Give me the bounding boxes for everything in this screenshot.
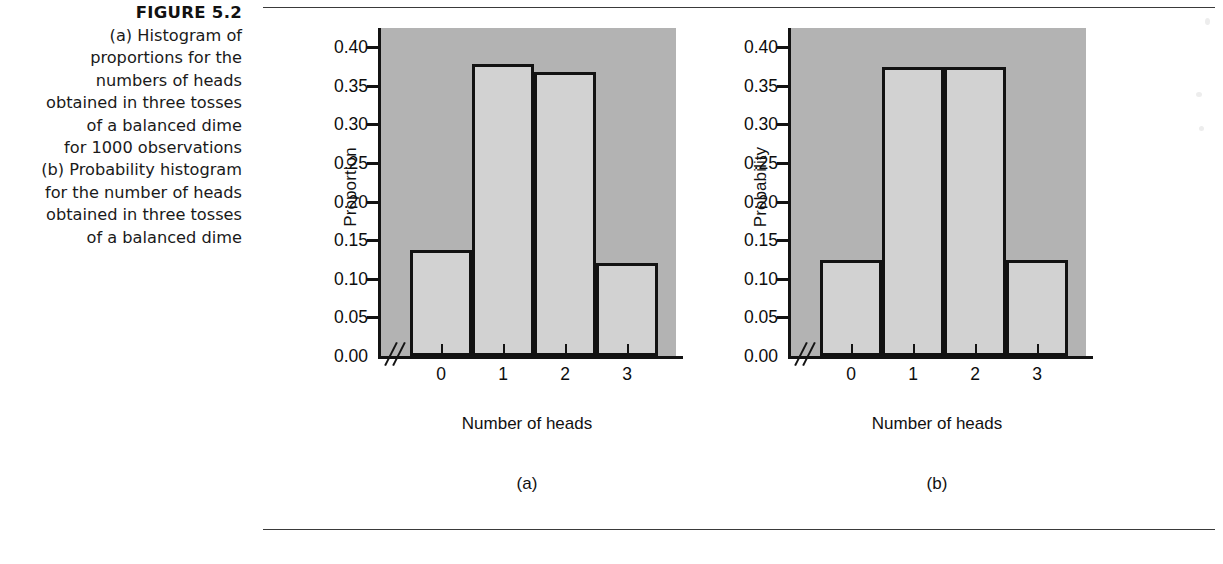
y-axis-tick <box>777 85 789 88</box>
plot-inner <box>378 28 676 356</box>
x-tick-label-group: 0123 <box>378 364 683 388</box>
x-axis-tick <box>441 344 443 357</box>
histogram-bar <box>596 263 658 356</box>
plot-area <box>378 28 676 356</box>
y-tick-label: 0.10 <box>716 270 778 288</box>
panel-label-a: (a) <box>378 474 676 494</box>
y-axis-tick <box>777 46 789 49</box>
y-axis-tick <box>367 123 379 126</box>
x-axis-spine <box>788 356 1093 359</box>
y-tick-label: 0.35 <box>306 77 368 95</box>
figure-bottom-rule <box>263 529 1215 530</box>
x-tick-label: 2 <box>960 364 990 385</box>
y-axis-tick <box>367 201 379 204</box>
histogram-bar <box>882 67 944 356</box>
chart-panel-b: Probability 0.000.050.100.150.200.250.30… <box>700 22 1130 512</box>
x-axis-tick <box>565 344 567 357</box>
caption-line: for 1000 observations <box>0 137 242 159</box>
histogram-bar <box>472 64 534 356</box>
y-tick-label: 0.05 <box>716 308 778 326</box>
y-axis-tick <box>367 162 379 165</box>
y-axis-tick <box>777 123 789 126</box>
caption-line: of a balanced dime <box>0 115 242 137</box>
y-tick-label-group: 0.000.050.100.150.200.250.300.350.40 <box>306 22 368 362</box>
y-tick-label: 0.30 <box>716 115 778 133</box>
caption-line: for the number of heads <box>0 182 242 204</box>
x-tick-label: 3 <box>612 364 642 385</box>
y-axis-spine <box>378 28 381 356</box>
y-axis-tick <box>367 316 379 319</box>
histogram-bar <box>410 250 472 356</box>
y-axis-tick <box>777 278 789 281</box>
y-tick-label: 0.35 <box>716 77 778 95</box>
x-tick-label: 2 <box>550 364 580 385</box>
plot-inner <box>788 28 1086 356</box>
x-tick-label-group: 0123 <box>788 364 1093 388</box>
x-axis-tick <box>913 344 915 357</box>
x-axis-title: Number of heads <box>788 414 1086 434</box>
y-tick-label: 0.30 <box>306 115 368 133</box>
caption-line: of a balanced dime <box>0 227 242 249</box>
caption-line: (a) Histogram of <box>0 25 242 47</box>
y-tick-label: 0.15 <box>716 231 778 249</box>
y-tick-label: 0.05 <box>306 308 368 326</box>
figure-number: FIGURE 5.2 <box>0 0 252 24</box>
y-tick-label: 0.40 <box>306 38 368 56</box>
x-tick-label: 0 <box>426 364 456 385</box>
plot-area <box>788 28 1086 356</box>
y-tick-label: 0.10 <box>306 270 368 288</box>
y-tick-label: 0.00 <box>716 347 778 365</box>
figure-top-rule <box>263 7 1215 8</box>
histogram-bar <box>820 260 882 356</box>
y-axis-spine <box>788 28 791 356</box>
y-axis-tick <box>777 239 789 242</box>
caption-line: (b) Probability histogram <box>0 159 242 181</box>
paper-speck <box>1199 126 1204 131</box>
caption-line: obtained in three tosses <box>0 204 242 226</box>
x-axis-spine <box>378 356 683 359</box>
y-tick-label: 0.25 <box>716 154 778 172</box>
y-tick-label: 0.15 <box>306 231 368 249</box>
y-axis-tick <box>367 85 379 88</box>
paper-speck <box>1196 92 1202 97</box>
chart-panel-a: Proportion 0.000.050.100.150.200.250.300… <box>290 22 720 512</box>
y-axis-tick <box>777 201 789 204</box>
caption-line: obtained in three tosses <box>0 92 242 114</box>
x-axis-tick <box>503 344 505 357</box>
y-axis-tick <box>367 239 379 242</box>
x-tick-label: 0 <box>836 364 866 385</box>
y-axis-tick <box>367 278 379 281</box>
y-axis-tick <box>777 316 789 319</box>
y-tick-label: 0.20 <box>716 193 778 211</box>
y-tick-label-group: 0.000.050.100.150.200.250.300.350.40 <box>716 22 778 362</box>
y-axis-tick <box>367 46 379 49</box>
histogram-bar <box>534 72 596 356</box>
y-tick-label: 0.25 <box>306 154 368 172</box>
x-tick-label: 1 <box>898 364 928 385</box>
x-axis-tick <box>1037 344 1039 357</box>
histogram-bar <box>1006 260 1068 356</box>
figure-caption-text: (a) Histogram of proportions for the num… <box>0 24 252 249</box>
x-axis-tick <box>851 344 853 357</box>
x-tick-label: 3 <box>1022 364 1052 385</box>
x-tick-label: 1 <box>488 364 518 385</box>
y-tick-label: 0.40 <box>716 38 778 56</box>
y-axis-tick <box>777 162 789 165</box>
x-axis-tick <box>627 344 629 357</box>
x-axis-title: Number of heads <box>378 414 676 434</box>
y-tick-label: 0.20 <box>306 193 368 211</box>
caption-line: proportions for the <box>0 47 242 69</box>
paper-speck <box>1205 18 1210 25</box>
figure-caption-block: FIGURE 5.2 (a) Histogram of proportions … <box>0 0 252 249</box>
histogram-bar <box>944 67 1006 356</box>
x-axis-tick <box>975 344 977 357</box>
y-tick-label: 0.00 <box>306 347 368 365</box>
panel-label-b: (b) <box>788 474 1086 494</box>
caption-line: numbers of heads <box>0 70 242 92</box>
